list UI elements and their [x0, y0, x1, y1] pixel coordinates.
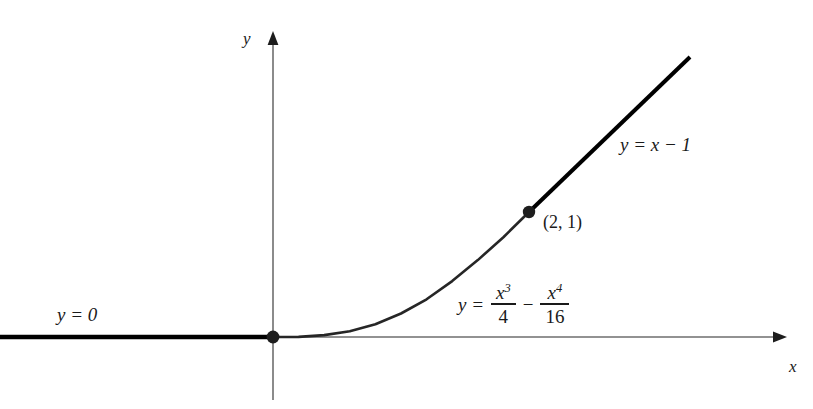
- x-axis-label: x: [789, 358, 797, 375]
- function-graph-figure: y x y = 0 y = x − 1 (2, 1) y = x3 4 − x4…: [0, 0, 813, 409]
- curve-equation-label: y = x3 4 − x4 16: [458, 283, 571, 326]
- term2-num-exponent: 4: [556, 281, 562, 295]
- term1-numerator: x3: [491, 283, 516, 303]
- zero-branch-label: y = 0: [57, 305, 97, 324]
- curve-equation-term2: x4 16: [540, 283, 569, 326]
- point-coordinate-label: (2, 1): [543, 213, 582, 231]
- term2-numerator: x4: [543, 283, 568, 303]
- x-axis-arrowhead: [773, 332, 787, 343]
- term2-denominator: 16: [540, 305, 569, 326]
- y-axis-arrowhead: [268, 31, 279, 45]
- curve-equation-lhs: y =: [458, 295, 484, 314]
- curve-equation-term1: x3 4: [491, 283, 516, 326]
- junction-point-dot: [523, 206, 535, 218]
- curve-equation-operator: −: [523, 295, 534, 314]
- y-axis-label: y: [243, 30, 251, 47]
- term2-num-base: x: [548, 282, 556, 303]
- term1-denominator: 4: [494, 305, 514, 326]
- term1-num-exponent: 3: [504, 281, 510, 295]
- origin-point-dot: [267, 331, 280, 344]
- line-branch-label: y = x − 1: [620, 135, 691, 154]
- graph-canvas: [0, 0, 813, 409]
